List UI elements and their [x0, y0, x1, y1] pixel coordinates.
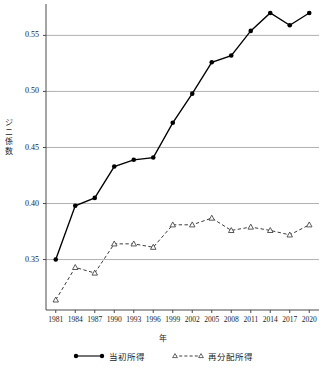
chart-legend: 当初所得 再分配所得 — [0, 350, 325, 362]
data-point-2011-s2[interactable] — [248, 224, 254, 229]
y-tick-label-0.40: 0.40 — [13, 199, 39, 208]
y-tick-label-0.50: 0.50 — [13, 86, 39, 95]
data-point-1981-s1[interactable] — [53, 257, 58, 262]
data-point-2005-s1[interactable] — [209, 60, 214, 65]
x-axis-title: 年 — [0, 332, 325, 343]
data-point-2002-s1[interactable] — [190, 91, 195, 96]
data-point-2020-s1[interactable] — [307, 11, 312, 16]
legend-item-initial-income[interactable]: 当初所得 — [72, 350, 145, 362]
legend-swatch-solid-circle-icon — [72, 351, 106, 361]
legend-swatch-dashed-triangle-icon — [171, 351, 205, 361]
data-point-2008-s1[interactable] — [229, 53, 234, 58]
legend-item-redistributed-income[interactable]: 再分配所得 — [171, 350, 253, 362]
data-point-1987-s1[interactable] — [92, 196, 97, 201]
data-point-1984-s1[interactable] — [73, 203, 78, 208]
legend-label-initial-income: 当初所得 — [109, 350, 145, 362]
y-tick-label-0.45: 0.45 — [13, 143, 39, 152]
data-point-2014-s1[interactable] — [268, 11, 273, 16]
data-point-2011-s1[interactable] — [248, 29, 253, 34]
data-point-2020-s2[interactable] — [307, 222, 313, 227]
data-point-1999-s1[interactable] — [170, 121, 175, 126]
y-axis-title-char-1: ニ — [2, 128, 16, 138]
gini-coefficient-line-chart: ジ ニ 係 数 0.350.400.450.500.55 19811984198… — [0, 0, 325, 370]
data-point-1990-s1[interactable] — [112, 164, 117, 169]
y-tick-label-0.35: 0.35 — [13, 255, 39, 264]
data-point-1984-s2[interactable] — [73, 265, 79, 270]
data-point-1981-s2[interactable] — [53, 297, 59, 302]
data-point-1996-s1[interactable] — [151, 155, 156, 160]
data-point-2017-s2[interactable] — [287, 232, 293, 237]
data-point-2017-s1[interactable] — [287, 23, 292, 28]
data-point-2005-s2[interactable] — [209, 215, 215, 220]
y-axis-title-char-0: ジ — [2, 118, 16, 128]
data-point-1993-s1[interactable] — [131, 158, 136, 163]
series-line-1 — [56, 13, 310, 260]
y-tick-label-0.55: 0.55 — [13, 30, 39, 39]
x-tick-label-2020: 2020 — [296, 315, 322, 324]
legend-label-redistributed-income: 再分配所得 — [208, 350, 253, 362]
